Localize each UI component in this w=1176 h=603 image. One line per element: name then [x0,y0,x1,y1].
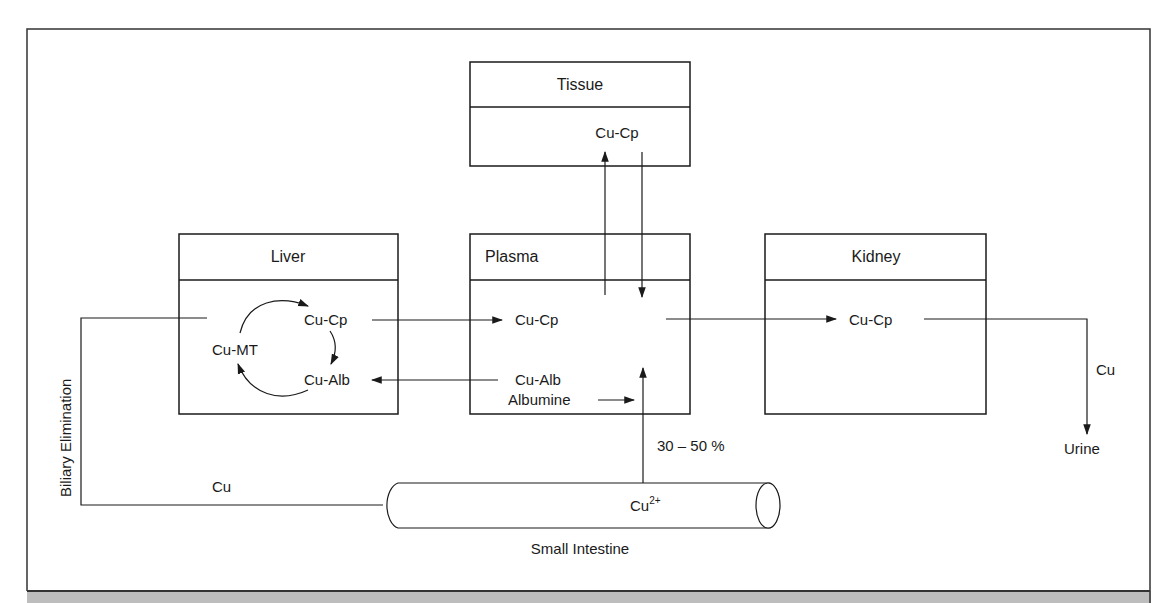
biliary-elimination-label: Biliary Elimination [57,379,74,497]
plasma-cu-cp: Cu-Cp [515,311,558,328]
kidney-box: Kidney Cu-Cp [765,234,986,414]
kidney-cu-cp: Cu-Cp [849,311,892,328]
copper-metabolism-diagram: Tissue Cu-Cp Liver Cu-Cp Cu-MT Cu-Alb Pl… [0,0,1176,603]
tissue-cu-cp: Cu-Cp [595,124,638,141]
footer-band [27,591,1151,603]
plasma-title: Plasma [485,248,538,265]
biliary-cu-label: Cu [212,478,231,495]
intestine-title: Small Intestine [531,540,629,557]
urine-label: Urine [1064,440,1100,457]
urine-cu-label: Cu [1096,361,1115,378]
plasma-box: Plasma Cu-Cp Cu-Alb Albumine [470,234,690,414]
liver-cu-alb: Cu-Alb [304,371,350,388]
small-intestine: Cu2+ Small Intestine [387,483,780,557]
kidney-title: Kidney [852,248,901,265]
liver-cu-cp: Cu-Cp [304,311,347,328]
tissue-box: Tissue Cu-Cp [470,62,690,166]
plasma-albumine: Albumine [508,391,571,408]
liver-box: Liver Cu-Cp Cu-MT Cu-Alb [179,234,398,414]
tissue-title: Tissue [557,76,604,93]
liver-cu-mt: Cu-MT [212,341,258,358]
liver-title: Liver [271,248,306,265]
absorption-label: 30 – 50 % [657,437,725,454]
plasma-cu-alb: Cu-Alb [515,371,561,388]
